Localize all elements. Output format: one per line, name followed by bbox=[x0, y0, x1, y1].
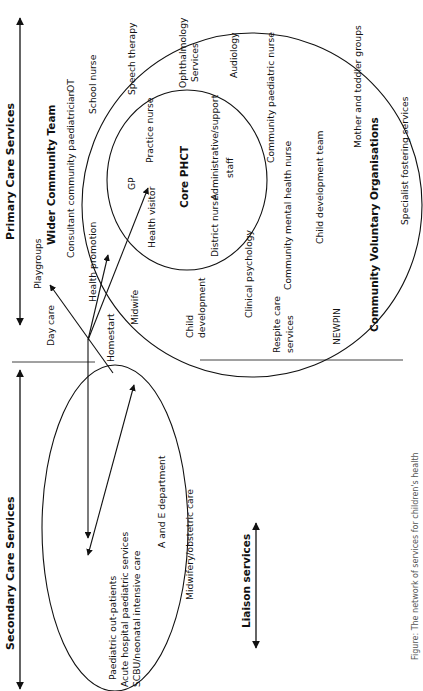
item-development: development bbox=[196, 277, 207, 338]
item-homestart: Homestart bbox=[105, 313, 116, 362]
diagram-canvas: Primary Care Services Secondary Care Ser… bbox=[0, 0, 423, 691]
core-phct-title: Core PHCT bbox=[178, 145, 190, 208]
item-clin-psych: Clinical psychology bbox=[243, 229, 254, 318]
item-ot: OT bbox=[65, 79, 76, 92]
liaison-label: Liaison services bbox=[240, 534, 252, 628]
item-respite-services: services bbox=[284, 315, 295, 353]
item-playgroups: Playgroups bbox=[32, 238, 43, 289]
item-ophthalmology: Ophthalmology bbox=[177, 17, 188, 88]
item-child: Child bbox=[184, 315, 195, 338]
item-cmhn: Community mental health nurse bbox=[282, 141, 293, 290]
item-school-nurse: School nurse bbox=[87, 54, 98, 114]
item-midwifery: Midwifery/obstetric care bbox=[184, 489, 195, 600]
item-newpin: NEWPIN bbox=[331, 308, 342, 345]
item-admin-support: Administrative/support bbox=[209, 94, 220, 200]
item-midwife: Midwife bbox=[129, 289, 140, 325]
figure-caption: Figure: The network of services for chil… bbox=[411, 452, 420, 660]
item-day-care: Day care bbox=[45, 305, 56, 346]
item-comm-paed-nurse: Community paediatric nurse bbox=[265, 32, 276, 163]
primary-care-label: Primary Care Services bbox=[4, 102, 17, 240]
item-health-promotion: Health promotion bbox=[87, 222, 98, 302]
item-child-dev-team: Child development team bbox=[314, 130, 325, 244]
item-mother-toddler: Mother and toddler groups bbox=[352, 25, 363, 148]
item-audiology: Audiology bbox=[228, 32, 239, 78]
item-practice-nurse: Practice nurse bbox=[144, 97, 155, 163]
item-services: Services bbox=[189, 43, 200, 82]
voluntary-title: Community Voluntary Organisations bbox=[368, 117, 380, 332]
item-gp: GP bbox=[126, 177, 137, 190]
item-speech: Speech therapy bbox=[126, 22, 137, 95]
item-respite: Respite care bbox=[271, 296, 282, 353]
item-a-and-e: A and E department bbox=[156, 455, 167, 548]
item-scbu: SCBU/neonatal intensive care bbox=[131, 550, 142, 687]
item-consultant: Consultant community paediatrician bbox=[65, 90, 76, 258]
item-acute-hospital: Acute hospital paediatric services bbox=[119, 532, 130, 687]
item-health-visitor: Health visitor bbox=[146, 186, 157, 248]
secondary-care-label: Secondary Care Services bbox=[4, 496, 17, 650]
item-paed-outpatients: Paediatric out-patients bbox=[107, 576, 118, 680]
wider-team-title: Wider Community Team bbox=[45, 105, 57, 245]
item-specialist-fostering: Specialist fostering services bbox=[399, 96, 410, 225]
item-district-nurse: District nurse bbox=[209, 195, 220, 257]
item-staff: staff bbox=[224, 157, 235, 178]
